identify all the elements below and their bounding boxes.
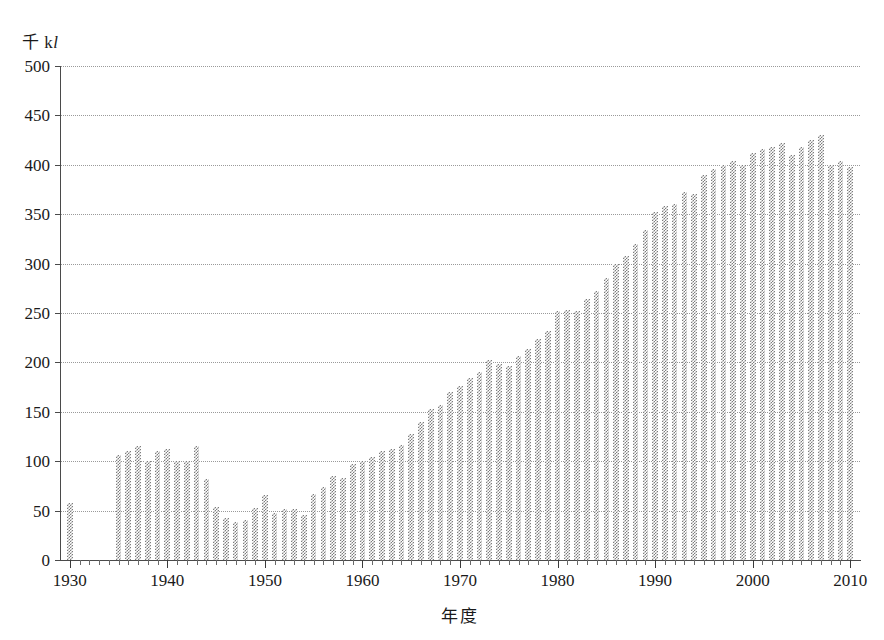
x-axis-minor-tick <box>226 560 227 565</box>
bar <box>184 461 190 560</box>
bar <box>847 167 853 560</box>
x-axis-minor-tick <box>343 560 344 565</box>
x-axis-minor-tick <box>450 560 451 565</box>
bar <box>516 356 522 560</box>
bar <box>125 451 131 560</box>
x-axis-minor-tick <box>606 560 607 565</box>
bar <box>564 310 570 560</box>
x-axis-major-tick <box>655 560 656 568</box>
x-axis-minor-tick <box>519 560 520 565</box>
bar <box>360 461 366 560</box>
bar <box>282 509 288 560</box>
x-axis-minor-tick <box>714 560 715 565</box>
x-axis-minor-tick <box>245 560 246 565</box>
y-axis-tick-label: 0 <box>4 552 50 569</box>
bar <box>584 299 590 560</box>
x-axis-minor-tick <box>840 560 841 565</box>
x-axis-minor-tick <box>821 560 822 565</box>
bar <box>721 165 727 560</box>
x-axis-minor-tick <box>372 560 373 565</box>
x-axis-minor-tick <box>694 560 695 565</box>
bar <box>164 449 170 560</box>
y-axis-tick-label: 500 <box>4 58 50 75</box>
bar <box>447 392 453 560</box>
bar-series <box>60 66 860 560</box>
y-axis-tick-label: 400 <box>4 157 50 174</box>
bar <box>613 264 619 560</box>
x-axis-major-tick <box>558 560 559 568</box>
x-axis-tick-label: 1960 <box>327 572 397 589</box>
bar <box>574 311 580 560</box>
bar <box>711 169 717 560</box>
x-axis-minor-tick <box>733 560 734 565</box>
x-axis-minor-tick <box>353 560 354 565</box>
x-axis-minor-tick <box>811 560 812 565</box>
bar-chart: 千 kl 050100150200250300350400450500 1930… <box>0 0 884 640</box>
x-axis-minor-tick <box>119 560 120 565</box>
bar <box>399 445 405 560</box>
bar <box>252 508 258 560</box>
y-axis-unit-label: 千 kl <box>22 28 58 53</box>
x-axis-tick-label: 1970 <box>425 572 495 589</box>
bar <box>213 507 219 560</box>
x-axis-minor-tick <box>148 560 149 565</box>
bar <box>145 461 151 560</box>
x-axis-minor-tick <box>323 560 324 565</box>
bar <box>701 175 707 560</box>
bar <box>789 155 795 560</box>
x-axis-tick-label: 1990 <box>620 572 690 589</box>
x-axis-minor-tick <box>548 560 549 565</box>
bar <box>633 244 639 560</box>
bar <box>730 161 736 560</box>
x-axis-minor-tick <box>275 560 276 565</box>
x-axis-minor-tick <box>80 560 81 565</box>
bar <box>291 509 297 560</box>
bar <box>418 422 424 560</box>
x-axis-minor-tick <box>704 560 705 565</box>
bar <box>828 165 834 560</box>
x-axis-minor-tick <box>187 560 188 565</box>
bar <box>779 143 785 560</box>
x-axis-minor-tick <box>392 560 393 565</box>
bar <box>457 386 463 560</box>
x-axis-minor-tick <box>284 560 285 565</box>
x-axis-minor-tick <box>294 560 295 565</box>
x-axis-major-tick <box>362 560 363 568</box>
x-axis-minor-tick <box>216 560 217 565</box>
x-axis-minor-tick <box>177 560 178 565</box>
bar <box>204 479 210 560</box>
x-axis-major-tick <box>70 560 71 568</box>
y-axis-tick-label: 250 <box>4 305 50 322</box>
y-axis-tick-label: 300 <box>4 256 50 273</box>
bar <box>272 513 278 560</box>
x-axis-minor-tick <box>440 560 441 565</box>
x-axis-minor-tick <box>645 560 646 565</box>
bar <box>467 378 473 560</box>
x-axis-minor-tick <box>109 560 110 565</box>
x-axis-major-tick <box>850 560 851 568</box>
x-axis-title: 年度 <box>60 602 860 627</box>
bar <box>340 478 346 560</box>
bar <box>233 522 239 560</box>
bar <box>535 339 541 560</box>
y-axis-tick-label: 450 <box>4 107 50 124</box>
x-axis-minor-tick <box>509 560 510 565</box>
x-axis-minor-tick <box>567 560 568 565</box>
bar <box>818 135 824 560</box>
x-axis-minor-tick <box>831 560 832 565</box>
bar <box>643 230 649 560</box>
bar <box>740 165 746 560</box>
bar <box>389 449 395 560</box>
x-axis-tick-label: 2000 <box>718 572 788 589</box>
bar <box>682 192 688 560</box>
x-axis-minor-tick <box>782 560 783 565</box>
bar <box>604 278 610 560</box>
bar <box>321 487 327 560</box>
x-axis-minor-tick <box>792 560 793 565</box>
x-axis-minor-tick <box>197 560 198 565</box>
x-axis-minor-tick <box>236 560 237 565</box>
x-axis-tick-label: 1940 <box>132 572 202 589</box>
x-axis-minor-tick <box>314 560 315 565</box>
x-axis-minor-tick <box>636 560 637 565</box>
bar <box>838 161 844 560</box>
